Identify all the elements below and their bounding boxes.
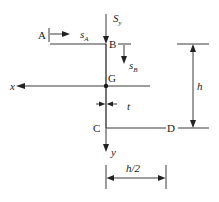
flange-width-label: h/2 bbox=[126, 162, 141, 174]
height-dimension-arrow-icon bbox=[190, 44, 196, 128]
point-b-label: B bbox=[109, 38, 116, 50]
point-c-label: C bbox=[93, 122, 100, 134]
s-b-arrow-icon bbox=[121, 45, 127, 64]
width-dimension-arrow-icon bbox=[107, 175, 166, 181]
point-a-label: A bbox=[38, 29, 46, 41]
y-axis-arrow-icon bbox=[103, 128, 109, 152]
x-axis-arrow-icon bbox=[16, 83, 150, 89]
centroid-dot bbox=[104, 84, 108, 88]
thickness-label: t bbox=[127, 100, 131, 112]
shear-force-label: Sy bbox=[113, 12, 123, 27]
y-axis-label: y bbox=[110, 146, 116, 158]
height-label: h bbox=[197, 80, 203, 92]
z-section-diagram: A sA Sy B sB x G t C D bbox=[0, 0, 219, 202]
s-a-arrow-icon bbox=[50, 31, 70, 37]
centroid-label: G bbox=[108, 72, 116, 84]
point-d-label: D bbox=[167, 122, 175, 134]
s-a-label: sA bbox=[80, 28, 89, 43]
s-b-label: sB bbox=[129, 59, 138, 74]
x-axis-label: x bbox=[9, 80, 15, 92]
